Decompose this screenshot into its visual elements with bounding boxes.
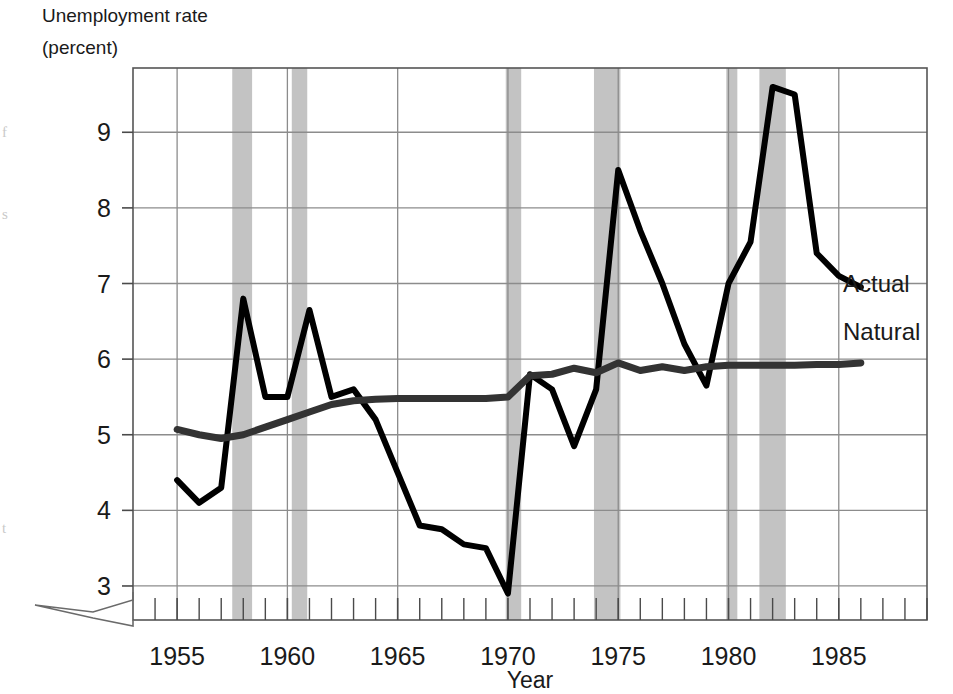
y-tick-label: 9: [97, 118, 111, 146]
x-tick-label: 1960: [260, 642, 316, 670]
x-axis-tick-labels: 1955196019651970197519801985: [149, 642, 866, 670]
y-tick-label: 7: [97, 270, 111, 298]
chart-title-line2: (percent): [42, 37, 118, 58]
y-tick-label: 4: [97, 496, 111, 524]
page-bleed-text: t: [2, 520, 6, 537]
series-label-natural: Natural: [843, 318, 920, 345]
page-bleed-text: s: [2, 206, 8, 223]
page-bleed-text: f: [2, 124, 7, 141]
y-tick-label: 6: [97, 345, 111, 373]
x-tick-label: 1955: [149, 642, 205, 670]
x-axis-title: Year: [507, 667, 554, 693]
unemployment-rate-line-chart: Unemployment rate (percent) 9876543 1955…: [0, 0, 953, 694]
x-tick-label: 1965: [370, 642, 426, 670]
x-tick-label: 1980: [701, 642, 757, 670]
series-label-actual: Actual: [843, 270, 910, 297]
axis-break-zigzag: [35, 592, 133, 626]
x-tick-label: 1985: [811, 642, 867, 670]
y-tick-label: 5: [97, 421, 111, 449]
x-tick-label: 1970: [480, 642, 536, 670]
y-tick-label: 8: [97, 194, 111, 222]
y-axis-tick-labels: 9876543: [97, 118, 111, 600]
y-axis-break-symbol: [35, 592, 133, 626]
chart-figure: Unemployment rate (percent) 9876543 1955…: [0, 0, 953, 694]
chart-title-line1: Unemployment rate: [42, 5, 208, 26]
x-tick-label: 1975: [590, 642, 646, 670]
y-tick-label: 3: [97, 572, 111, 600]
